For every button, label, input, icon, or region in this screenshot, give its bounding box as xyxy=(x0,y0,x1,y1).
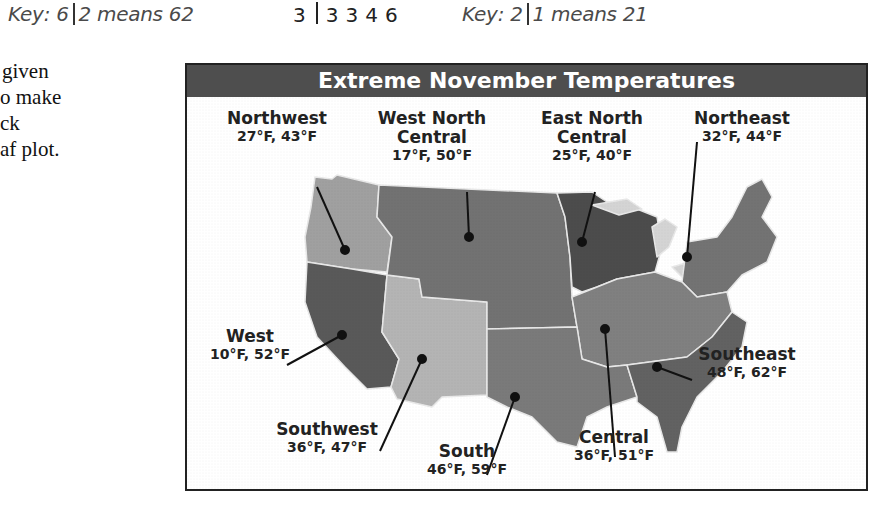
region-name: Southwest xyxy=(267,420,387,439)
label-central: Central 36°F, 51°F xyxy=(559,428,669,464)
region-name: South xyxy=(417,442,517,461)
leaf: 3 xyxy=(326,3,339,27)
region-temps: 17°F, 50°F xyxy=(362,147,502,164)
key-left: Key: 62 means 62 xyxy=(8,2,194,26)
label-southwest: Southwest 36°F, 47°F xyxy=(267,420,387,456)
stem-divider xyxy=(73,3,75,25)
region-name: Northeast xyxy=(682,109,802,128)
temperature-map-panel: Extreme November Temperatures xyxy=(185,63,868,491)
key-left-prefix: Key: 6 xyxy=(8,2,69,26)
stem-divider xyxy=(316,2,318,24)
label-south: South 46°F, 59°F xyxy=(417,442,517,478)
side-text-line: given xyxy=(0,58,61,84)
label-west: West 10°F, 52°F xyxy=(205,327,295,363)
region-name: West xyxy=(205,327,295,346)
label-east-north-central: East North Central 25°F, 40°F xyxy=(527,109,657,164)
side-text-line: o make xyxy=(0,84,61,110)
region-name: East North xyxy=(527,109,657,128)
key-right-suffix: 1 means 21 xyxy=(533,2,648,26)
map-title: Extreme November Temperatures xyxy=(187,65,866,97)
leaf: 4 xyxy=(365,3,378,27)
label-northwest: Northwest 27°F, 43°F xyxy=(217,109,337,145)
region-temps: 25°F, 40°F xyxy=(527,147,657,164)
key-right-prefix: Key: 2 xyxy=(462,2,523,26)
stem-divider xyxy=(527,3,529,25)
region-name: Central xyxy=(559,428,669,447)
label-southeast: Southeast 48°F, 62°F xyxy=(692,345,802,381)
region-name: Central xyxy=(527,128,657,147)
region-name: West North xyxy=(362,109,502,128)
region-name: Southeast xyxy=(692,345,802,364)
region-temps: 32°F, 44°F xyxy=(682,128,802,145)
region-temps: 27°F, 43°F xyxy=(217,128,337,145)
side-text-line: ck xyxy=(0,110,61,136)
side-text: given o make ck af plot. xyxy=(0,58,61,162)
stem: 3 xyxy=(293,3,306,27)
key-left-suffix: 2 means 62 xyxy=(79,2,194,26)
region-temps: 10°F, 52°F xyxy=(205,346,295,363)
region-name: Northwest xyxy=(217,109,337,128)
key-right: Key: 21 means 21 xyxy=(462,2,648,26)
region-temps: 46°F, 59°F xyxy=(417,461,517,478)
region-name: Central xyxy=(362,128,502,147)
region-temps: 36°F, 51°F xyxy=(559,447,669,464)
leaf: 6 xyxy=(385,3,398,27)
label-west-north-central: West North Central 17°F, 50°F xyxy=(362,109,502,164)
side-text-line: af plot. xyxy=(0,136,61,162)
region-temps: 48°F, 62°F xyxy=(692,364,802,381)
leaf: 3 xyxy=(345,3,358,27)
stem-leaf-row: 33346 xyxy=(293,2,405,27)
label-northeast: Northeast 32°F, 44°F xyxy=(682,109,802,145)
region-temps: 36°F, 47°F xyxy=(267,439,387,456)
